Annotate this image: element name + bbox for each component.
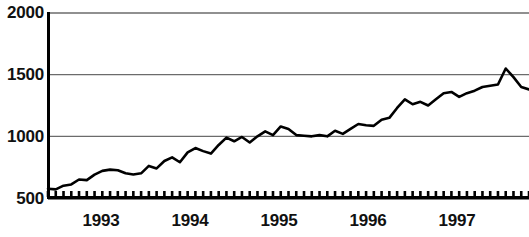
data-series-line [48, 69, 529, 190]
line-chart: 2000 1500 1000 500 1993 1994 1995 1996 1… [0, 0, 529, 237]
plot-area [0, 0, 529, 237]
